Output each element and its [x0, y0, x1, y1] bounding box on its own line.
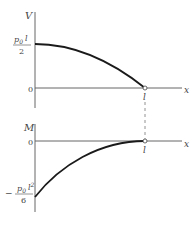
svg-text:2: 2	[19, 47, 24, 56]
m-axis-label: M	[23, 122, 35, 133]
m-min-label: − p0l2 6	[5, 181, 35, 205]
bending-moment-plot: M x 0 − p0l2 6 l	[5, 122, 189, 212]
svg-text:6: 6	[21, 196, 26, 205]
v-axis-label: V	[25, 10, 34, 21]
shear-curve	[35, 44, 145, 88]
v-end-point	[143, 86, 147, 90]
m-x-axis-label: x	[184, 139, 189, 149]
svg-text:p0l: p0l	[14, 34, 28, 45]
m-end-point	[143, 139, 147, 143]
svg-text:−: −	[5, 188, 13, 198]
v-x-axis-label: x	[184, 85, 189, 95]
m-origin-label: 0	[28, 138, 33, 147]
svg-text:p0l2: p0l2	[17, 181, 35, 194]
v-origin-label: 0	[28, 85, 33, 94]
moment-curve	[35, 141, 145, 197]
v-max-label: p0l 2	[13, 34, 31, 56]
m-x-end-label: l	[143, 145, 146, 155]
shear-force-plot: V x 0 p0l 2 l	[13, 10, 189, 108]
shear-moment-diagram: V x 0 p0l 2 l M x 0 − p0l2 6 l	[0, 0, 196, 228]
v-x-end-label: l	[143, 92, 146, 102]
